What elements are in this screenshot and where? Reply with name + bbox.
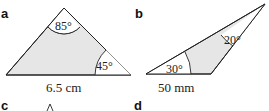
triangle-a: 85° 45° 6.5 cm bbox=[6, 8, 131, 95]
triangle-c-apex bbox=[47, 104, 53, 111]
figure-label-a: a bbox=[1, 6, 9, 21]
figure-label-c: c bbox=[1, 98, 8, 111]
triangle-exercise-figure: 85° 45° 6.5 cm a 30° 20° 50 mm b c d bbox=[0, 0, 269, 111]
side-length-a: 6.5 cm bbox=[46, 80, 81, 95]
diagram-canvas: 85° 45° 6.5 cm a 30° 20° 50 mm b c d bbox=[0, 0, 269, 111]
angle-label-20: 20° bbox=[224, 33, 241, 47]
triangle-b: 30° 20° 50 mm bbox=[146, 4, 265, 95]
figure-label-b: b bbox=[135, 6, 143, 21]
side-length-b: 50 mm bbox=[158, 80, 194, 95]
figure-label-d: d bbox=[134, 98, 142, 111]
angle-label-45: 45° bbox=[96, 59, 113, 73]
angle-label-30: 30° bbox=[166, 62, 183, 76]
angle-label-85: 85° bbox=[55, 19, 72, 33]
